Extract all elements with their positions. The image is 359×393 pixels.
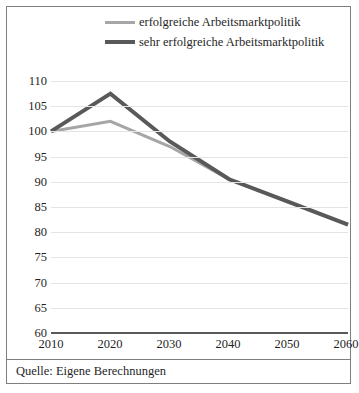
gridline [51,308,348,309]
gridline [51,283,348,284]
plot-container: 1101051009590858075706560 [7,81,352,333]
gridline [51,257,348,258]
chart-legend: erfolgreiche Arbeitsmarktpolitik sehr er… [7,15,350,55]
y-axis-tick-label: 85 [35,201,48,213]
legend-line-swatch-icon [105,40,135,44]
caption-divider [7,359,350,360]
axis-baseline [51,332,348,334]
gridline [51,207,348,208]
x-axis-tick-label: 2010 [39,337,64,351]
y-axis: 1101051009590858075706560 [7,81,51,333]
gridline [51,182,348,183]
y-axis-tick-label: 80 [35,226,48,238]
gridline [51,232,348,233]
legend-entry-label: erfolgreiche Arbeitsmarktpolitik [139,15,300,29]
x-axis: 201020202030204020502060 [51,337,346,355]
chart-figure: erfolgreiche Arbeitsmarktpolitik sehr er… [6,6,351,384]
x-axis-tick-label: 2050 [275,337,300,351]
x-axis-tick-label: 2020 [98,337,123,351]
y-axis-tick-label: 75 [35,251,48,263]
y-axis-tick-label: 90 [35,176,48,188]
gridline [51,106,348,107]
chart-source-caption: Quelle: Eigene Berechnungen [16,364,166,379]
legend-entry-sehr-erfolgreiche[interactable]: sehr erfolgreiche Arbeitsmarktpolitik [7,35,350,49]
legend-entry-label: sehr erfolgreiche Arbeitsmarktpolitik [139,35,324,49]
y-axis-tick-label: 105 [28,100,47,112]
series-line [51,94,348,225]
legend-line-swatch-icon [105,21,135,24]
y-axis-tick-label: 95 [35,151,48,163]
y-axis-tick-label: 70 [35,277,48,289]
x-axis-tick-label: 2030 [157,337,182,351]
gridline [51,131,348,132]
gridline [51,157,348,158]
y-axis-tick-label: 100 [28,125,47,137]
x-axis-tick-label: 2040 [216,337,241,351]
y-axis-tick-label: 110 [29,75,47,87]
y-axis-tick-label: 65 [35,302,48,314]
legend-entry-erfolgreiche[interactable]: erfolgreiche Arbeitsmarktpolitik [7,15,350,29]
x-axis-tick-label: 2060 [334,337,359,351]
gridline [51,81,348,82]
plot-area [51,81,348,333]
